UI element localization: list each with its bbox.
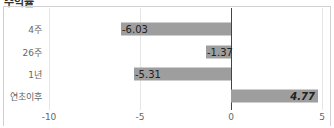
x-tick-label: -5 — [136, 112, 145, 122]
x-tick-label: 0 — [228, 112, 234, 122]
category-label: 26주 — [23, 46, 42, 59]
bar-value-label: -6.03 — [122, 23, 148, 36]
data-bar: -1.37 — [206, 46, 231, 59]
x-tick-label: 5 — [319, 112, 325, 122]
gridline — [322, 8, 323, 110]
category-label: 4주 — [28, 23, 42, 36]
bar-value-label: 4.77 — [290, 90, 315, 103]
bar-value-label: -1.37 — [207, 46, 233, 59]
gridline — [49, 8, 50, 110]
data-bar: -6.03 — [121, 23, 231, 36]
bar-value-label: -5.31 — [135, 68, 161, 81]
x-tick-label: -10 — [42, 112, 57, 122]
data-bar: 4.77 — [231, 90, 318, 103]
data-bar: -5.31 — [134, 68, 231, 81]
category-label: 연초이후 — [10, 90, 42, 103]
category-label: 1년 — [28, 68, 42, 81]
